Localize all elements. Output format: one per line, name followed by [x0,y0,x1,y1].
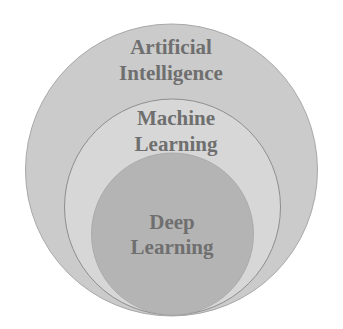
deep-learning-circle [92,153,254,315]
nested-circles-diagram: Artificial Intelligence Machine Learning… [0,0,343,329]
ml-label-line1: Machine [137,106,215,130]
ai-label-line2: Intelligence [119,61,223,85]
ml-label-line2: Learning [135,132,218,156]
ai-label-line1: Artificial [130,35,212,59]
dl-label-line2: Learning [131,235,214,259]
dl-label-line1: Deep [149,210,195,234]
